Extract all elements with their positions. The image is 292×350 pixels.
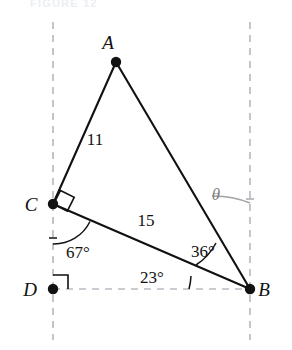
side-label-cb: 15: [138, 211, 155, 230]
angle-label-67: 67°: [66, 243, 90, 262]
vertex-label-b: B: [258, 279, 270, 300]
vertex-dot-a: [111, 57, 121, 67]
angle-label-theta: θ: [212, 185, 220, 204]
triangle-diagram: A B C D 11 15 67° 36° 23° θ: [0, 0, 292, 350]
vertex-label-c: C: [25, 194, 38, 215]
segment-ca: [53, 62, 116, 204]
figure-container: FIGURE 12 A B C D 11: [0, 0, 292, 350]
segment-ab: [116, 62, 250, 289]
vertex-label-a: A: [100, 32, 114, 53]
vertex-dot-c: [48, 199, 58, 209]
vertex-label-d: D: [22, 279, 37, 300]
angle-arc-23: [189, 276, 191, 289]
vertex-dot-b: [245, 284, 255, 294]
angle-arc-67: [53, 222, 90, 245]
side-label-ca: 11: [87, 130, 103, 149]
angle-label-36: 36°: [191, 242, 215, 261]
vertex-dot-d: [48, 284, 58, 294]
angle-label-23: 23°: [140, 268, 164, 287]
